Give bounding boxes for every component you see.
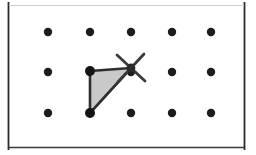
app-root: Dot Grid Geoboard Dot paper grid with a …: [0, 0, 256, 155]
grid-dot[interactable]: [168, 109, 176, 117]
grid-dot[interactable]: [127, 28, 135, 36]
grid-dot[interactable]: [86, 28, 94, 36]
grid-dot[interactable]: [44, 28, 52, 36]
grid-dot[interactable]: [168, 28, 176, 36]
grid-dot[interactable]: [207, 68, 215, 76]
canvas-background: [0, 0, 256, 155]
grid-dot[interactable]: [44, 68, 52, 76]
cursor-hub[interactable]: [127, 64, 136, 73]
grid-dot[interactable]: [127, 109, 135, 117]
triangle-vertex-handle[interactable]: [85, 66, 95, 76]
grid-dot[interactable]: [168, 68, 176, 76]
grid-dot[interactable]: [44, 109, 52, 117]
dot-grid-canvas[interactable]: [0, 0, 256, 155]
triangle-vertex-handle[interactable]: [85, 108, 95, 118]
canvas-svg[interactable]: [0, 0, 256, 155]
grid-dot[interactable]: [207, 28, 215, 36]
grid-dot[interactable]: [207, 109, 215, 117]
